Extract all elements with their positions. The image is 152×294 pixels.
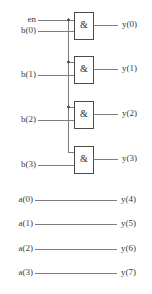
output-label-y2: y(2) bbox=[122, 109, 137, 118]
circuit-diagram-canvas: & & & & en b(0) b(1) b(2) b(3) a(0) a(1)… bbox=[0, 0, 152, 294]
input-label-a3: a(3) bbox=[0, 268, 33, 277]
output-label-y4: y(4) bbox=[121, 195, 136, 204]
input-label-b0: b(0) bbox=[0, 26, 36, 35]
input-label-b2: b(2) bbox=[0, 115, 36, 124]
passthrough-wires-group bbox=[35, 200, 117, 273]
output-label-y3: y(3) bbox=[122, 154, 137, 163]
input-label-b1: b(1) bbox=[0, 70, 36, 79]
input-label-a0: a(0) bbox=[0, 195, 33, 204]
and-gate-2-enable-junction-dot bbox=[67, 105, 70, 108]
enable-bus-group bbox=[38, 20, 74, 152]
and-gate-0-enable-junction-dot bbox=[67, 18, 70, 21]
output-label-y5: y(5) bbox=[121, 219, 136, 228]
input-label-a2: a(2) bbox=[0, 244, 33, 253]
and-gate-2-symbol: & bbox=[74, 109, 94, 119]
output-label-y0: y(0) bbox=[122, 20, 137, 29]
input-label-b3: b(3) bbox=[0, 160, 36, 169]
output-label-y7: y(7) bbox=[121, 268, 136, 277]
output-label-y1: y(1) bbox=[122, 64, 137, 73]
input-label-a1: a(1) bbox=[0, 219, 33, 228]
and-gate-3-symbol: & bbox=[74, 154, 94, 164]
and-gate-0-symbol: & bbox=[74, 20, 94, 30]
and-gate-1-symbol: & bbox=[74, 64, 94, 74]
input-label-en: en bbox=[0, 15, 36, 24]
and-gate-1-enable-junction-dot bbox=[67, 60, 70, 63]
output-label-y6: y(6) bbox=[121, 244, 136, 253]
